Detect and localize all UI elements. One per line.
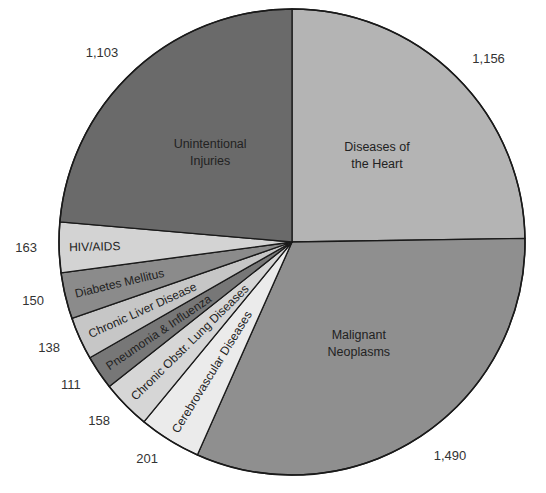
pie-chart: Diseases ofthe Heart1,156MalignantNeopla… bbox=[0, 0, 546, 493]
slice-label-line: Injuries bbox=[190, 154, 230, 168]
pie-slices bbox=[59, 9, 525, 475]
value-label-diabetes-mellitus: 150 bbox=[22, 293, 44, 308]
value-label-pneumonia-influenza: 111 bbox=[61, 377, 81, 392]
value-label-chronic-obstr-lung-diseases: 158 bbox=[88, 413, 110, 428]
slice-label-line: Unintentional bbox=[174, 137, 247, 151]
pie-slice-diseases-of-the-heart bbox=[292, 9, 525, 242]
slice-label-line: Neoplasms bbox=[328, 345, 391, 359]
value-label-diseases-of-the-heart: 1,156 bbox=[472, 51, 505, 66]
value-label-cerebrovascular-diseases: 201 bbox=[136, 451, 158, 466]
value-label-hiv-aids: 163 bbox=[15, 240, 37, 255]
slice-label-line: the Heart bbox=[351, 157, 403, 171]
value-label-malignant-neoplasms: 1,490 bbox=[434, 448, 467, 463]
slice-label-line: Malignant bbox=[332, 328, 387, 342]
value-label-unintentional-injuries: 1,103 bbox=[86, 45, 119, 60]
slice-label-line: Diseases of bbox=[344, 140, 410, 154]
value-label-chronic-liver-disease: 138 bbox=[38, 340, 60, 355]
slice-label-hiv-aids: HIV/AIDS bbox=[69, 239, 121, 254]
